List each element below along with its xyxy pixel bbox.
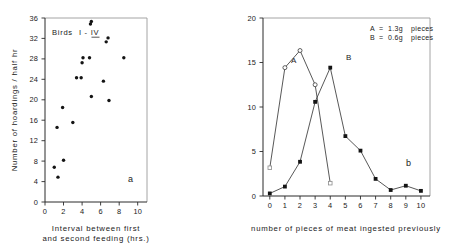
panel-b-linechart: 0 5 10 15 20 012345678910 mean number of… [234,0,468,247]
panel-a-ylabel: Number of hoardings / half hr [10,49,19,172]
panel-b-point-b-6 [359,149,363,153]
panel-a-point-1 [55,126,58,129]
panel-a-point-2 [56,175,59,178]
panel-a-svg: 0 4 8 12 16 20 24 28 32 36 0 2 [0,0,234,247]
panel-b-xtick-2: 2 [298,201,302,210]
legend-row-0-unit: pieces [411,25,433,33]
panel-b-ytick-5: 5 [252,147,256,156]
panel-b-xtick-4: 4 [328,201,332,210]
legend-row-1-key: B [370,34,375,41]
panel-a-point-14 [102,79,105,82]
panel-a-xtick-10: 10 [133,207,142,216]
panel-b-point-a-3 [313,83,317,87]
panel-a-point-7 [79,76,82,79]
panel-a-datapoints [53,20,126,179]
panel-a-ytick-0: 0 [34,198,38,207]
panel-a-annotation-birds: Birds [52,28,73,37]
panel-b-point-a-1 [283,66,287,70]
panel-a-ytick-24: 24 [29,75,38,84]
panel-b-yaxis: 0 5 10 15 20 [247,14,263,201]
panel-a-point-9 [81,56,84,59]
panel-b-point-b-5 [343,134,347,138]
figure-container: 0 4 8 12 16 20 24 28 32 36 0 2 [0,0,468,247]
panel-a-xlabel-line2: and second feeding (hrs.) [42,234,149,243]
panel-b-point-a-2 [298,49,302,53]
panel-a-xtick-8: 8 [117,207,121,216]
panel-a-ytick-36: 36 [29,14,38,23]
panel-b-dataseries [268,49,423,196]
panel-b-point-b-4 [328,66,332,70]
panel-a-ytick-16: 16 [29,116,38,125]
panel-b-letter: b [406,158,411,168]
panel-a-ytick-28: 28 [29,54,38,63]
panel-b-point-b-8 [389,188,393,192]
panel-a-point-10 [88,56,91,59]
panel-b-xaxis: 012345678910 [268,196,426,210]
panel-a-point-3 [62,159,65,162]
panel-a-xtick-2: 2 [61,207,65,216]
panel-a-ytick-20: 20 [29,95,38,104]
panel-b-svg: 0 5 10 15 20 012345678910 mean number of… [234,0,468,247]
panel-b-ytick-15: 15 [247,58,256,67]
panel-a-annotation: Birds I - IV [52,28,100,37]
panel-a-point-5 [71,121,74,124]
panel-b-xtick-8: 8 [389,201,393,210]
panel-b-xtick-1: 1 [283,201,287,210]
legend-row-1-value: 0.6g [388,34,403,42]
panel-a-point-13 [90,95,93,98]
panel-a-point-4 [61,106,64,109]
panel-a-scatter: 0 4 8 12 16 20 24 28 32 36 0 2 [0,0,234,247]
panel-b-xtick-3: 3 [313,201,317,210]
panel-a-annotation-range: I - IV [79,28,99,37]
panel-b-point-b-2 [298,160,302,164]
panel-a-point-15 [105,40,108,43]
panel-a-xtick-0: 0 [43,207,47,216]
panel-b-point-b-9 [404,184,408,188]
panel-b-ytick-0: 0 [252,192,256,201]
panel-a-point-17 [107,99,110,102]
panel-b-xtick-10: 10 [417,201,426,210]
panel-a-ytick-8: 8 [34,157,38,166]
panel-b-xtick-6: 6 [358,201,362,210]
panel-b-point-b-1 [283,185,287,189]
panel-b-series-label-b: B [346,53,352,62]
legend-row-0-eq: = [379,25,383,32]
panel-a-xaxis: 0 2 4 6 8 10 [43,202,142,216]
panel-a-xlabel-line1: Interval between first [52,224,141,233]
panel-b-point-b-10 [419,189,423,193]
panel-b-ytick-20: 20 [247,14,256,23]
panel-b-legend: A = 1.3g pieces B = 0.6g pieces [370,25,433,42]
panel-a-point-16 [106,36,109,39]
panel-a-yaxis: 0 4 8 12 16 20 24 28 32 36 [29,14,45,207]
panel-b-point-a-4 [328,181,332,185]
legend-row-1-unit: pieces [411,34,433,42]
panel-a-point-0 [53,165,56,168]
panel-a-point-6 [75,76,78,79]
panel-b-xtick-7: 7 [373,201,377,210]
panel-b-frame [263,18,430,196]
panel-b-point-b-7 [374,177,378,181]
panel-a-ytick-4: 4 [34,177,38,186]
panel-b-xtick-0: 0 [268,201,272,210]
panel-a-point-12 [90,20,93,23]
legend-row-0-value: 1.3g [388,25,403,33]
panel-b-point-b-0 [268,192,272,196]
panel-a-point-18 [122,56,125,59]
legend-row-0-key: A [370,25,375,32]
panel-b-ytick-10: 10 [247,103,256,112]
panel-a-letter: a [128,174,133,184]
panel-a-xtick-6: 6 [98,207,102,216]
panel-a-ytick-12: 12 [29,136,38,145]
panel-b-xtick-5: 5 [343,201,347,210]
panel-b-line-b [270,68,421,194]
legend-row-1-eq: = [379,34,383,41]
panel-a-ytick-32: 32 [29,34,38,43]
panel-a-xtick-4: 4 [80,207,84,216]
panel-b-xlabel: number of pieces of meat ingested previo… [251,224,441,233]
panel-b-point-b-3 [313,100,317,104]
panel-b-point-a-0 [268,166,272,170]
panel-b-xtick-9: 9 [404,201,408,210]
panel-a-point-8 [80,61,83,64]
